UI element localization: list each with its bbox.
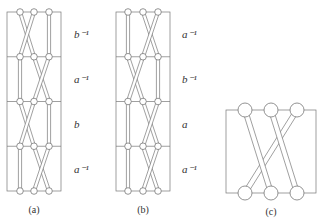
node-circle [17,188,24,195]
panel-b: a⁻¹b⁻¹aa⁻¹(b) [116,9,197,216]
generator-label: b [74,118,80,130]
panel-c: (c) [226,103,316,218]
generator-label: b⁻¹ [182,73,197,85]
node-circle [155,9,162,16]
node-circle [264,186,278,200]
node-circle [46,9,53,16]
generator-label: a⁻¹ [182,163,197,175]
node-circle [31,143,38,150]
generator-label: a⁻¹ [182,28,197,40]
node-circle [46,98,53,105]
panel-caption: (c) [265,206,276,218]
node-circle [17,9,24,16]
node-circle [31,9,38,16]
node-circle [238,103,252,117]
braid-diagram: b⁻¹a⁻¹ba⁻¹(a)a⁻¹b⁻¹aa⁻¹(b)(c) [0,0,322,222]
node-circle [31,53,38,60]
generator-label: a⁻¹ [74,73,89,85]
node-circle [290,186,304,200]
node-circle [17,143,24,150]
panel-caption: (a) [28,204,39,216]
generator-label: b⁻¹ [74,28,89,40]
node-circle [46,53,53,60]
node-circle [125,9,132,16]
node-circle [46,188,53,195]
node-circle [264,103,278,117]
panel-a: b⁻¹a⁻¹ba⁻¹(a) [7,9,89,216]
node-circle [155,98,162,105]
generator-label: a [182,118,188,130]
node-circle [17,53,24,60]
node-circle [125,188,132,195]
node-circle [31,98,38,105]
node-circle [155,53,162,60]
node-circle [46,143,53,150]
node-circle [125,143,132,150]
node-circle [155,143,162,150]
node-circle [140,188,147,195]
node-circle [125,98,132,105]
node-circle [125,53,132,60]
panel-caption: (b) [137,204,149,216]
node-circle [31,188,38,195]
node-circle [140,9,147,16]
node-circle [17,98,24,105]
generator-label: a⁻¹ [74,163,89,175]
node-circle [290,103,304,117]
node-circle [140,53,147,60]
node-circle [238,186,252,200]
node-circle [155,188,162,195]
node-circle [140,98,147,105]
node-circle [140,143,147,150]
